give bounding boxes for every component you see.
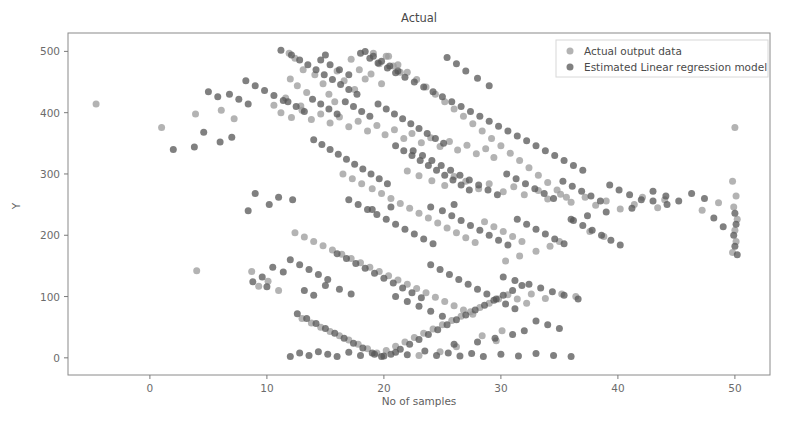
data-point: [394, 61, 401, 68]
data-point: [626, 191, 633, 198]
data-point: [430, 240, 437, 247]
data-point: [397, 200, 404, 207]
data-point: [390, 280, 397, 287]
data-point: [315, 271, 322, 278]
data-point: [399, 115, 406, 122]
data-point: [587, 193, 594, 200]
data-point: [427, 261, 434, 268]
data-point: [427, 308, 434, 315]
data-point: [289, 196, 296, 203]
data-point: [509, 287, 516, 294]
data-point: [325, 106, 332, 113]
data-point: [335, 151, 342, 158]
data-point: [654, 204, 661, 211]
chart-legend[interactable]: Actual output dataEstimated Linear regre…: [556, 40, 768, 77]
data-point: [563, 194, 570, 201]
data-point: [358, 108, 365, 115]
data-point: [509, 233, 516, 240]
data-point: [518, 238, 525, 245]
data-point: [449, 177, 456, 184]
data-point: [404, 351, 411, 358]
x-tick-label: 50: [728, 382, 741, 394]
data-point: [428, 157, 435, 164]
data-point: [432, 135, 439, 142]
data-point: [476, 113, 483, 120]
data-point: [494, 191, 501, 198]
data-point: [578, 188, 585, 195]
data-point: [275, 194, 282, 201]
data-point: [392, 293, 399, 300]
data-point: [432, 294, 439, 301]
data-point: [392, 69, 399, 76]
data-point: [313, 66, 320, 73]
legend-marker-0: [567, 48, 574, 55]
data-point: [343, 255, 350, 262]
data-point: [407, 120, 414, 127]
data-point: [616, 186, 623, 193]
data-point: [514, 296, 521, 303]
data-point: [472, 239, 479, 246]
data-point: [617, 242, 624, 249]
data-point: [331, 330, 338, 337]
data-point: [497, 351, 504, 358]
data-point: [348, 291, 355, 298]
data-point: [404, 298, 411, 305]
data-point: [345, 196, 352, 203]
data-point: [404, 167, 411, 174]
data-point: [544, 321, 551, 328]
data-point: [603, 208, 610, 215]
data-point: [638, 196, 645, 203]
data-point: [341, 335, 348, 342]
data-point: [441, 182, 448, 189]
data-point: [462, 68, 469, 75]
data-point: [472, 307, 479, 314]
data-point: [550, 195, 557, 202]
data-point: [481, 218, 488, 225]
data-point: [310, 136, 317, 143]
data-point: [730, 232, 737, 239]
data-point: [291, 229, 298, 236]
data-point: [255, 283, 262, 290]
data-point: [369, 185, 376, 192]
data-point: [318, 141, 325, 148]
data-point: [327, 61, 334, 68]
data-point: [205, 88, 212, 95]
data-point: [382, 131, 389, 138]
data-point: [541, 190, 548, 197]
data-point: [242, 77, 249, 84]
data-point: [345, 71, 352, 78]
data-point: [499, 327, 506, 334]
data-point: [628, 205, 635, 212]
data-point: [606, 182, 613, 189]
data-point: [306, 266, 313, 273]
data-point: [509, 331, 516, 338]
data-point: [373, 122, 380, 129]
data-point: [371, 351, 378, 358]
data-point: [438, 162, 445, 169]
y-tick-label: 500: [40, 45, 60, 57]
data-point: [309, 96, 316, 103]
data-point: [675, 197, 682, 204]
data-point: [451, 106, 458, 113]
data-point: [416, 125, 423, 132]
data-point: [376, 175, 383, 182]
data-point: [521, 327, 528, 334]
data-point: [322, 282, 329, 289]
data-point: [200, 129, 207, 136]
data-point: [468, 350, 475, 357]
data-point: [733, 193, 740, 200]
data-point: [266, 201, 273, 208]
data-point: [584, 212, 591, 219]
data-point: [453, 60, 460, 67]
data-point: [688, 190, 695, 197]
data-point: [455, 276, 462, 283]
data-point: [733, 221, 740, 228]
data-point: [357, 352, 364, 359]
data-point: [280, 269, 287, 276]
data-point: [321, 71, 328, 78]
data-point: [456, 172, 463, 179]
data-point: [513, 175, 520, 182]
data-point: [324, 351, 331, 358]
data-point: [437, 266, 444, 273]
data-point: [192, 110, 199, 117]
